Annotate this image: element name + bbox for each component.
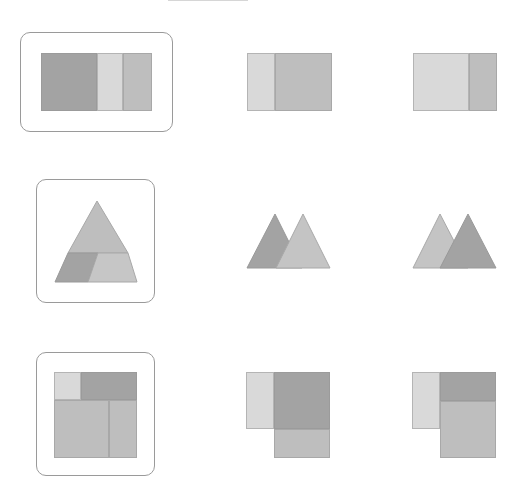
- rect-mid: [274, 429, 330, 458]
- square-dark: [274, 372, 330, 429]
- square-light: [54, 372, 81, 400]
- option-row-2-a[interactable]: [247, 214, 330, 268]
- option-row-2-b[interactable]: [413, 214, 496, 268]
- rect-mid: [54, 400, 109, 458]
- rect-light: [412, 372, 440, 429]
- square-mid: [440, 401, 496, 458]
- rect-mid: [109, 400, 137, 458]
- rect-dark: [440, 372, 496, 401]
- rect-dark: [81, 372, 137, 400]
- rect-light: [246, 372, 274, 429]
